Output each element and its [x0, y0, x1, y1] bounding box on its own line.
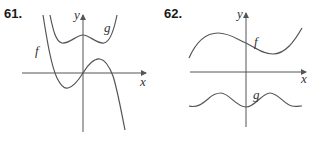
curve-label-f-61: f — [35, 43, 41, 58]
curve-label-g-62: g — [253, 87, 260, 102]
curve-label-g-61: g — [104, 20, 111, 35]
y-axis-label-62: y — [235, 6, 243, 21]
panel-62: 62. x y f g — [164, 6, 307, 127]
panel-61: 61. x y f g — [4, 6, 146, 132]
problem-number-61: 61. — [4, 6, 22, 21]
y-axis-label-61: y — [72, 7, 80, 22]
x-axis-label-61: x — [139, 74, 146, 89]
curve-label-f-62: f — [254, 34, 260, 49]
figure: 61. x y f g 62. x y f g — [0, 0, 321, 145]
problem-number-62: 62. — [164, 6, 182, 21]
x-axis-label-62: x — [300, 71, 307, 86]
